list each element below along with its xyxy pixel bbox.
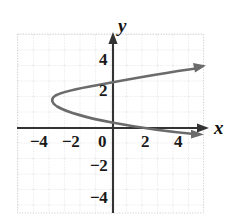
y-tick-4: 4 bbox=[99, 51, 107, 68]
y-axis-label: y bbox=[118, 16, 126, 35]
x-tick-4: 4 bbox=[174, 133, 182, 150]
y-tick-2: 2 bbox=[99, 82, 107, 99]
y-tick-minus4: −4 bbox=[90, 189, 107, 206]
x-tick-0: 0 bbox=[98, 133, 106, 150]
y-tick-minus2: −2 bbox=[90, 157, 107, 174]
x-tick-minus4: −4 bbox=[30, 133, 47, 150]
x-tick-minus2: −2 bbox=[62, 133, 79, 150]
x-tick-2: 2 bbox=[141, 133, 149, 150]
x-axis-label: x bbox=[214, 118, 224, 137]
graph-figure: y x −4 −2 0 2 4 4 2 −2 −4 bbox=[0, 0, 237, 222]
